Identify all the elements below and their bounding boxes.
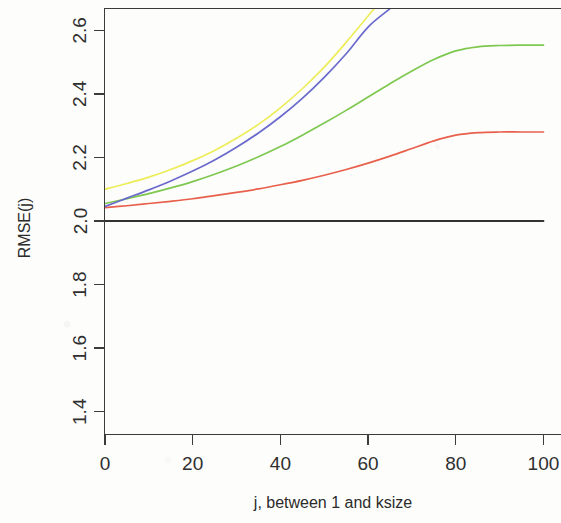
- y-tick-label: 1.6: [70, 335, 91, 361]
- y-tick-layer: 1.41.61.82.02.22.42.6: [70, 17, 105, 425]
- y-axis-title: RMSE(j): [16, 198, 33, 258]
- y-tick-label: 2.0: [70, 208, 91, 234]
- y-tick-label: 2.6: [70, 17, 91, 43]
- y-tick-label: 2.4: [70, 80, 91, 107]
- figure-root: 1.41.61.82.02.22.42.6 020406080100 RMSE(…: [0, 0, 561, 523]
- series-green-curve: [105, 45, 543, 203]
- x-tick-label: 100: [528, 453, 560, 474]
- x-tick-label: 0: [100, 453, 111, 474]
- x-tick-label: 40: [270, 453, 291, 474]
- y-tick-label: 1.4: [70, 398, 91, 425]
- x-axis-title: j, between 1 and ksize: [253, 494, 412, 511]
- y-tick-label: 1.8: [70, 271, 91, 297]
- x-tick-label: 60: [358, 453, 379, 474]
- x-tick-label: 80: [445, 453, 466, 474]
- rmse-line-chart: 1.41.61.82.02.22.42.6 020406080100 RMSE(…: [0, 0, 561, 523]
- x-tick-label: 20: [182, 453, 203, 474]
- y-tick-label: 2.2: [70, 144, 91, 170]
- series-layer: [105, 0, 543, 221]
- x-tick-layer: 020406080100: [100, 435, 560, 475]
